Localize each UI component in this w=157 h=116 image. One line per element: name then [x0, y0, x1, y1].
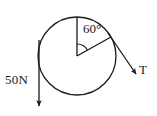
inclined-radius-line — [77, 37, 111, 56]
angle-label: 60° — [83, 22, 101, 35]
angle-arc — [77, 44, 87, 50]
tension-label: T — [139, 63, 147, 76]
diagram-canvas — [0, 0, 157, 116]
physics-diagram: 60° T 50N — [0, 0, 157, 116]
tension-force-line — [108, 33, 136, 74]
weight-label: 50N — [5, 73, 28, 86]
